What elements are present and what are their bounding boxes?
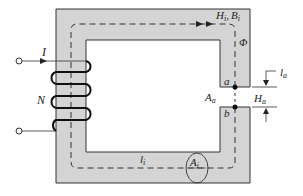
label-gap-area: Aa <box>204 91 216 105</box>
label-gap-length: la <box>280 66 287 80</box>
label-current: I <box>41 45 47 59</box>
label-flux: Φ <box>239 36 248 48</box>
label-gap-field: Ha <box>253 92 266 106</box>
dim-arrowhead-bottom-icon <box>263 108 269 114</box>
terminal-bottom[interactable] <box>16 128 22 134</box>
label-point-a: a <box>224 75 230 87</box>
coil-winding <box>52 61 91 131</box>
dim-arrowhead-top-icon <box>263 80 269 86</box>
label-point-b: b <box>224 107 230 119</box>
terminal-top[interactable] <box>16 58 22 64</box>
label-hi-bi: Hi,Bi <box>215 9 240 23</box>
point-a-dot <box>233 85 238 90</box>
point-b-dot <box>233 105 238 110</box>
magnetic-circuit-diagram: I N Hi,Bi Φ a b Aa Ha la li Ai <box>0 0 303 196</box>
label-turns: N <box>36 93 46 107</box>
